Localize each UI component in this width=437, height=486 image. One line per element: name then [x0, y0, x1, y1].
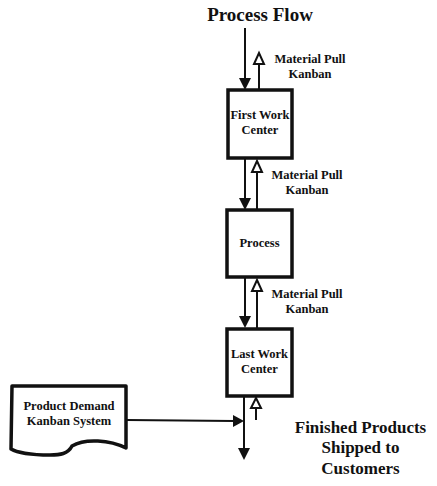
process-label: Process [227, 236, 292, 251]
last-work-center-line2: Center [227, 362, 292, 377]
flow-arrow-2 [239, 158, 251, 210]
product-demand-label: Product Demand Kanban System [12, 399, 126, 429]
process-line1: Process [227, 236, 292, 251]
flow-arrow-3 [239, 277, 251, 328]
kanban-label-3-line2: Kanban [267, 302, 347, 317]
first-work-center-line1: First Work [228, 108, 292, 123]
diagram-title: Process Flow [200, 4, 320, 27]
process-flow-in-arrow [239, 28, 251, 90]
finished-products-line3: Customers [288, 459, 433, 479]
product-demand-line2: Kanban System [12, 414, 126, 429]
kanban-label-3: Material Pull Kanban [267, 287, 347, 317]
last-work-center-line1: Last Work [227, 347, 292, 362]
first-work-center-line2: Center [228, 123, 292, 138]
last-work-center-label: Last Work Center [227, 347, 292, 377]
kanban-label-2-line2: Kanban [267, 183, 347, 198]
kanban-label-1-line2: Kanban [270, 67, 350, 82]
finished-products-out-arrow [238, 396, 250, 460]
kanban-label-3-line1: Material Pull [267, 287, 347, 302]
finished-products-line2: Shipped to [288, 438, 433, 458]
kanban-pull-arrow-3 [252, 280, 262, 328]
product-demand-line1: Product Demand [12, 399, 126, 414]
first-work-center-label: First Work Center [228, 108, 292, 138]
kanban-pull-arrow-2 [252, 161, 262, 210]
kanban-label-2: Material Pull Kanban [267, 168, 347, 198]
kanban-label-2-line1: Material Pull [267, 168, 347, 183]
demand-signal-arrow [127, 415, 244, 427]
customer-demand-pull-arrow [251, 398, 261, 420]
kanban-label-1-line1: Material Pull [270, 52, 350, 67]
finished-products-line1: Finished Products [288, 418, 433, 438]
finished-products-label: Finished Products Shipped to Customers [288, 418, 433, 479]
kanban-pull-arrow-1 [254, 53, 264, 90]
kanban-label-1: Material Pull Kanban [270, 52, 350, 82]
